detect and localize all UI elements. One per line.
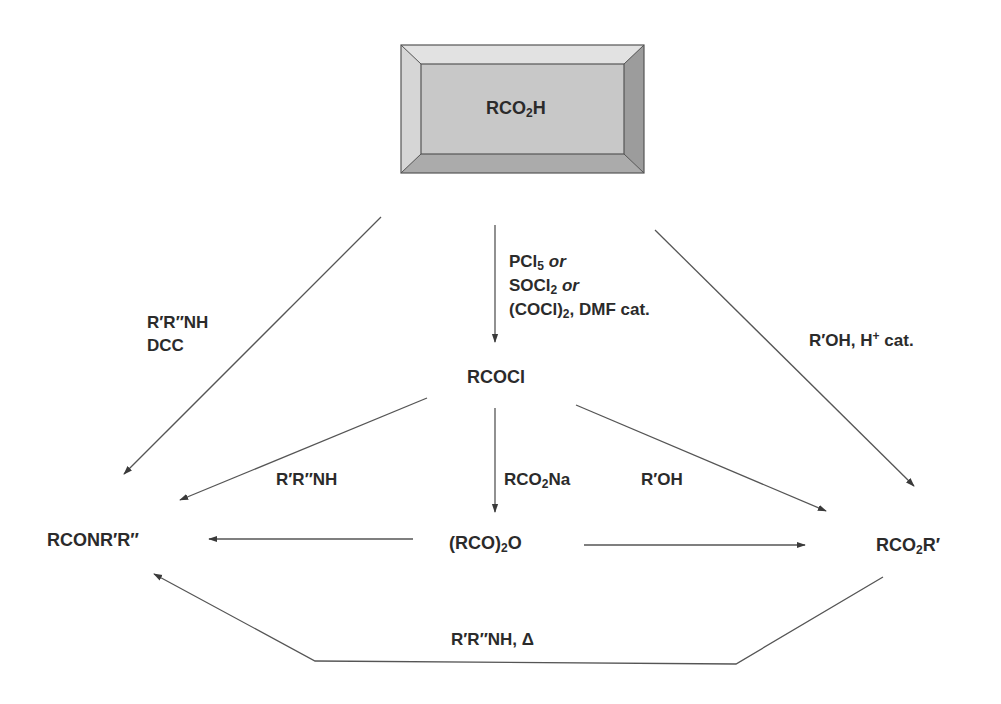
reagent-line-socl2: SOCl2 or <box>509 274 650 298</box>
reagent-line-oxalyl: (COCl)2, DMF cat. <box>509 298 650 322</box>
reagent-acylchloride-to-amide: R′R″NH <box>276 469 337 491</box>
node-amide: RCONR′R″ <box>47 529 139 551</box>
reagent-acylchloride-to-ester: R′OH <box>641 469 683 491</box>
reagent-ester-to-amide: R′R″NH, Δ <box>451 629 534 651</box>
node-acyl-chloride: RCOCl <box>467 366 525 388</box>
node-acid: RCO2H <box>486 97 546 119</box>
reagent-acid-to-ester: R′OH, H+ cat. <box>809 330 914 352</box>
reagent-dcc: DCC <box>147 334 208 357</box>
reagent-acid-to-amide: R′R″NH DCC <box>147 311 208 357</box>
node-ester: RCO2R′ <box>876 534 940 556</box>
arrow-acylchloride-to-ester <box>576 405 826 511</box>
reagent-acid-to-acylchloride: PCl5 or SOCl2 or (COCl)2, DMF cat. <box>509 250 650 322</box>
reagent-acylchloride-to-anhydride: RCO2Na <box>504 469 570 491</box>
node-anhydride: (RCO)2O <box>449 532 522 554</box>
arrow-acid-to-ester <box>655 230 914 486</box>
reagent-line-pcl5: PCl5 or <box>509 250 650 274</box>
reagent-amine: R′R″NH <box>147 311 208 334</box>
